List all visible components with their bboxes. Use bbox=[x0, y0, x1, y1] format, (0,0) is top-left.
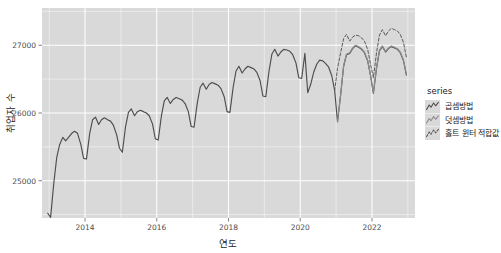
y-axis-title-text: 취업자 수 bbox=[5, 93, 16, 132]
plot-panel bbox=[42, 8, 415, 218]
y-tick-label: 25000 bbox=[12, 177, 36, 186]
x-tick-label: 2018 bbox=[219, 223, 238, 232]
legend-item-1[interactable]: 덧셈방법 bbox=[425, 114, 473, 127]
x-tick-label: 2020 bbox=[291, 223, 310, 232]
legend-item-2[interactable]: 홀트 윈터 적합값 bbox=[425, 127, 500, 140]
x-tick-label: 2022 bbox=[362, 223, 381, 232]
legend-item-label: 덧셈방법 bbox=[445, 115, 473, 125]
legend-item-label: 홀트 윈터 적합값 bbox=[445, 128, 500, 138]
legend-item-label: 곱셈방법 bbox=[445, 101, 473, 111]
legend-title: series bbox=[427, 86, 453, 96]
x-tick-label: 2016 bbox=[147, 223, 166, 232]
legend-item-0[interactable]: 곱셈방법 bbox=[425, 100, 473, 113]
chart-container: 250002600027000 20142016201820202022 취업자… bbox=[0, 0, 501, 253]
y-tick-label: 27000 bbox=[12, 41, 36, 50]
x-axis-title-text: 연도 bbox=[219, 238, 237, 249]
y-axis-title: 취업자 수 bbox=[5, 93, 16, 132]
x-tick-label: 2014 bbox=[75, 223, 94, 232]
legend-key-background bbox=[425, 100, 440, 113]
legend-key-background bbox=[425, 114, 440, 127]
employment-timeseries-chart: 250002600027000 20142016201820202022 취업자… bbox=[0, 0, 501, 253]
legend-key-background bbox=[425, 127, 440, 140]
